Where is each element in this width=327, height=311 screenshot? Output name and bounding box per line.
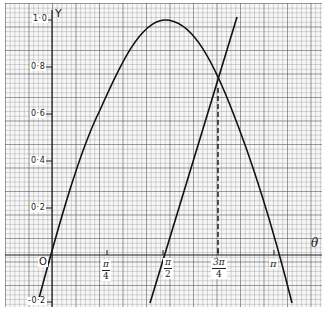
y-tick-label-0.2: 0·2 — [30, 204, 46, 212]
x-tick-label-pi-over-2: π 2 — [163, 258, 173, 279]
y-tick-label-0.6: 0·6 — [30, 110, 46, 118]
x-tick-label-3pi-over-4: 3π 4 — [211, 258, 227, 279]
y-tick-label-neg0.2: -0·2 — [27, 297, 47, 305]
y-tick-label-0.8: 0·8 — [30, 63, 46, 71]
y-tick-label-1.0: 1·0 — [32, 15, 48, 23]
y-axis-label: Y — [55, 8, 62, 19]
origin-label: O — [38, 257, 48, 267]
x-tick-label-pi: π — [269, 259, 278, 269]
x-tick-label-pi-over-4: π 4 — [101, 260, 111, 281]
x-axis-label: θ — [311, 237, 318, 249]
y-tick-label-0.4: 0·4 — [30, 157, 46, 165]
